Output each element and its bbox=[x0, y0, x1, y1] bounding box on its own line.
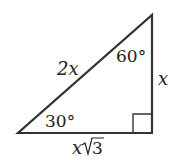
angle-label-60: 60° bbox=[116, 46, 146, 66]
long-leg-label: x 3 bbox=[72, 137, 104, 158]
hypotenuse-label: 2x bbox=[56, 58, 79, 79]
right-angle-marker bbox=[133, 114, 152, 133]
angle-label-30: 30° bbox=[45, 111, 75, 131]
short-leg-label: x bbox=[158, 68, 168, 89]
triangle-diagram: 60° 2x x 30° x 3 bbox=[0, 0, 175, 160]
triangle-outline bbox=[18, 15, 152, 133]
long-leg-variable: x bbox=[72, 137, 82, 158]
long-leg-radicand: 3 bbox=[92, 138, 103, 158]
